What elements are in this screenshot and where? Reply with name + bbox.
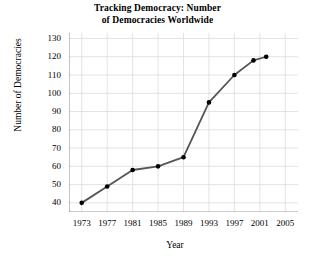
plot-svg — [69, 33, 298, 212]
chart-title: Tracking Democracy: Number of Democracie… — [0, 3, 315, 26]
y-tick-label-70: 70 — [31, 144, 61, 153]
chart-container: Tracking Democracy: Number of Democracie… — [0, 0, 315, 262]
axis-ticks — [69, 38, 285, 212]
y-tick-label-110: 110 — [31, 71, 61, 80]
y-tick-label-80: 80 — [31, 125, 61, 134]
y-tick-label-50: 50 — [31, 180, 61, 189]
y-tick-label-120: 120 — [31, 52, 61, 61]
chart-title-line-2: of Democracies Worldwide — [0, 15, 315, 27]
y-tick-label-100: 100 — [31, 89, 61, 98]
x-tick-label-2005: 2005 — [268, 219, 302, 228]
y-tick-label-130: 130 — [31, 34, 61, 43]
y-axis-label: Number of Democracies — [13, 5, 23, 165]
chart-title-line-1: Tracking Democracy: Number — [0, 3, 315, 15]
plot-area — [69, 33, 298, 212]
x-axis-label: Year — [60, 240, 290, 250]
gridlines — [69, 33, 298, 212]
y-tick-label-90: 90 — [31, 107, 61, 116]
y-tick-label-60: 60 — [31, 162, 61, 171]
y-tick-label-40: 40 — [31, 198, 61, 207]
